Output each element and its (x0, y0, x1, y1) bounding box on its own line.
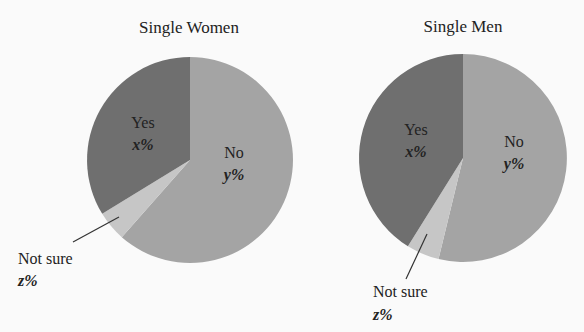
women-not-sure-label: Not sure (18, 250, 73, 267)
women-yes-value: x% (131, 136, 153, 153)
pie-single-men: Single Men Yes x% No y% Not sure z% (359, 17, 567, 323)
pie-single-women: Single Women Yes x% No y% Not sure z% (17, 18, 293, 289)
pie-charts: Single Women Yes x% No y% Not sure z% Si… (0, 0, 584, 332)
men-yes-value: x% (404, 143, 426, 160)
women-yes-label: Yes (131, 114, 154, 131)
men-not-sure-label: Not sure (373, 283, 428, 300)
men-not-sure-value: z% (372, 306, 393, 323)
men-title: Single Men (424, 17, 503, 36)
men-yes-label: Yes (404, 121, 427, 138)
women-no-value: y% (222, 166, 244, 184)
women-no-label: No (224, 144, 244, 161)
women-not-sure-value: z% (17, 272, 38, 289)
men-no-label: No (504, 133, 524, 150)
women-title: Single Women (139, 18, 239, 37)
men-no-value: y% (502, 155, 524, 173)
women-not-sure-leader (73, 217, 119, 242)
